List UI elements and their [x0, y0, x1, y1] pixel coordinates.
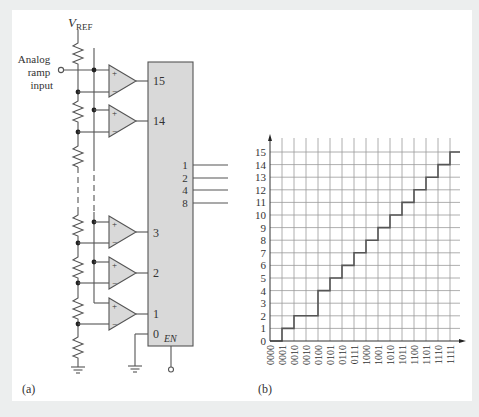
x-tick-label: 0101: [325, 345, 336, 365]
x-tick-label: 1101: [421, 345, 432, 365]
svg-text:1: 1: [182, 159, 188, 171]
y-axis-arrow-icon: [268, 134, 272, 141]
svg-text:−: −: [112, 278, 117, 288]
x-tick-label: 0010: [289, 345, 300, 365]
adc-step-chart: 0123456789101112131415 00000001001000100…: [255, 134, 466, 396]
resistor-icon: [73, 143, 83, 167]
svg-text:3: 3: [153, 226, 159, 240]
x-tick-label: 0111: [349, 345, 360, 364]
x-tick-label: 1000: [361, 345, 372, 365]
ground-icon: [71, 365, 85, 373]
resistor-icon: [73, 334, 83, 365]
x-axis-arrow-icon: [459, 339, 466, 343]
enable-pin: EN: [163, 333, 178, 372]
x-tick-label: 0110: [337, 345, 348, 365]
svg-text:+: +: [112, 108, 117, 118]
svg-text:−: −: [112, 126, 117, 136]
resistor-icon: [73, 212, 83, 244]
resistor-chain: [73, 30, 83, 365]
svg-text:+: +: [112, 219, 117, 229]
chart-grid: [270, 138, 460, 341]
y-tick-label: 8: [261, 234, 267, 246]
svg-text:4: 4: [182, 184, 188, 196]
y-tick-label: 5: [261, 272, 267, 284]
y-tick-label: 1: [261, 322, 267, 334]
vref-label: VREF: [68, 15, 92, 32]
y-tick-label: 2: [261, 310, 267, 322]
enable-terminal-icon: [169, 367, 174, 372]
svg-text:+: +: [112, 68, 117, 78]
svg-text:−: −: [112, 86, 117, 96]
resistor-icon: [73, 295, 83, 325]
y-tick-label: 6: [261, 259, 267, 271]
svg-text:+: +: [112, 301, 117, 311]
y-tick-label: 7: [261, 247, 267, 259]
y-tick-label: 10: [255, 209, 267, 221]
x-tick-label: 1111: [445, 345, 456, 364]
svg-text:0: 0: [153, 327, 159, 341]
x-tick-label: 1110: [433, 345, 444, 364]
x-tick-label: 1011: [397, 345, 408, 365]
ramp-input-bus: [94, 48, 109, 303]
x-tick-label: 1010: [385, 345, 396, 365]
panel-b-label: (b): [258, 382, 272, 396]
x-axis-ticks: 0000000100100010010001010110011110001001…: [265, 345, 456, 365]
svg-text:8: 8: [182, 197, 188, 209]
svg-text:15: 15: [153, 74, 165, 88]
flash-adc-circuit: VREF Analog: [18, 15, 228, 396]
svg-text:EN: EN: [163, 333, 178, 344]
x-tick-label: 0100: [313, 345, 324, 365]
svg-text:14: 14: [153, 114, 165, 128]
svg-text:−: −: [112, 237, 117, 247]
y-tick-label: 9: [261, 222, 267, 234]
step-output-line: [270, 152, 460, 341]
resistor-icon: [73, 97, 83, 134]
resistor-icon: [73, 254, 83, 284]
x-tick-label: 0010: [301, 345, 312, 365]
svg-text:1: 1: [153, 307, 159, 321]
y-tick-label: 14: [255, 159, 267, 171]
analog-ramp-input-label: Analog ramp input: [18, 53, 53, 91]
encoder-input-zero: 0: [128, 327, 159, 372]
x-tick-label: 0000: [265, 345, 276, 365]
y-tick-label: 11: [255, 196, 266, 208]
resistor-icon: [73, 40, 83, 70]
svg-text:2: 2: [182, 172, 188, 184]
y-tick-label: 13: [255, 171, 267, 183]
y-tick-label: 12: [255, 184, 266, 196]
x-tick-label: 0001: [277, 345, 288, 365]
svg-text:−: −: [112, 319, 117, 329]
panel-a-label: (a): [22, 382, 35, 396]
figure-canvas: VREF Analog: [0, 0, 479, 417]
y-axis-ticks: 0123456789101112131415: [255, 146, 267, 347]
input-terminal-icon: [58, 67, 63, 72]
y-tick-label: 15: [255, 146, 267, 158]
y-tick-label: 4: [261, 285, 267, 297]
x-tick-label: 1100: [409, 345, 420, 365]
svg-text:2: 2: [153, 266, 159, 280]
svg-text:+: +: [112, 260, 117, 270]
x-tick-label: 1001: [373, 345, 384, 365]
y-tick-label: 3: [261, 297, 267, 309]
